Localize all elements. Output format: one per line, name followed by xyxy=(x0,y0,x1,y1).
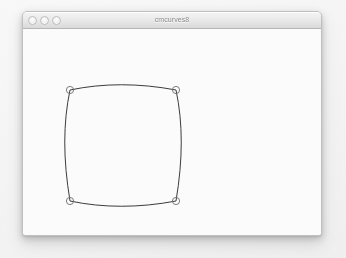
curve-graphic xyxy=(23,29,321,235)
window-title: cmcurves8 xyxy=(23,15,321,25)
drawing-canvas[interactable] xyxy=(23,29,321,234)
application-window[interactable]: cmcurves8 xyxy=(22,11,322,236)
bezier-curve-path xyxy=(65,85,182,207)
window-titlebar[interactable]: cmcurves8 xyxy=(23,12,321,29)
control-points-group xyxy=(66,86,179,204)
